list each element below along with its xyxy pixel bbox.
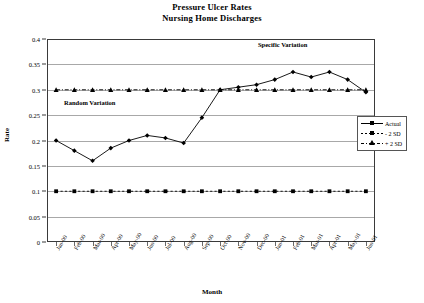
y-axis-tick-label: 0.25 <box>29 112 40 119</box>
data-point <box>218 189 222 193</box>
data-point <box>364 189 368 193</box>
data-point <box>200 189 204 193</box>
y-axis-tick-label: 0.2 <box>32 137 40 144</box>
data-point <box>309 75 314 80</box>
data-point <box>163 136 168 141</box>
data-point <box>145 133 150 138</box>
chart-subtitle: Nursing Home Discharges <box>0 13 424 24</box>
series-2-sd <box>54 87 369 92</box>
data-point <box>272 77 277 82</box>
chart-legend: Actual - 2 SD + 2 SD <box>357 116 407 151</box>
data-point <box>327 87 332 92</box>
legend-item-plus-2sd: + 2 SD <box>361 140 402 147</box>
y-axis-tick <box>42 115 46 116</box>
data-point <box>163 87 168 92</box>
data-point <box>327 70 332 75</box>
data-point <box>72 148 77 153</box>
y-axis-tick-label: 0.3 <box>32 86 40 93</box>
series-line <box>56 72 366 161</box>
y-axis-tick <box>42 39 46 40</box>
y-axis-tick-label: 0.35 <box>29 61 40 68</box>
y-axis-tick <box>42 165 46 166</box>
data-point <box>254 82 259 87</box>
data-point <box>127 138 132 143</box>
series-2-sd <box>54 189 368 193</box>
annotation-specific-variation: Specific Variation <box>258 41 307 48</box>
data-point <box>54 138 59 143</box>
data-point <box>54 189 58 193</box>
data-point <box>291 70 296 75</box>
legend-item-actual: Actual <box>361 120 402 127</box>
data-point <box>328 189 332 193</box>
data-point <box>363 87 368 92</box>
y-axis-tick-label: 0.4 <box>32 36 40 43</box>
data-point <box>164 189 168 193</box>
data-point <box>255 189 259 193</box>
data-point <box>182 189 186 193</box>
legend-label-plus-2sd: + 2 SD <box>385 141 402 147</box>
y-axis-labels: 0.40.350.30.250.20.150.10.050 <box>0 39 45 242</box>
legend-label-actual: Actual <box>385 121 401 127</box>
data-point <box>72 189 76 193</box>
y-axis-tick-label: 0.05 <box>29 213 40 220</box>
data-point <box>91 189 95 193</box>
legend-key-actual-icon <box>361 120 383 127</box>
legend-key-plus-2sd-icon <box>361 140 383 147</box>
y-axis-tick-label: 0.1 <box>32 188 40 195</box>
data-point <box>236 189 240 193</box>
series-layer <box>47 39 375 242</box>
y-axis-tick <box>42 216 46 217</box>
y-axis-tick <box>42 242 46 243</box>
y-axis-tick-label: 0.15 <box>29 162 40 169</box>
legend-key-minus-2sd-icon <box>361 130 383 137</box>
y-axis-tick <box>42 140 46 141</box>
y-axis-tick <box>42 89 46 90</box>
data-point <box>127 189 131 193</box>
data-point <box>145 189 149 193</box>
y-axis-tick <box>42 191 46 192</box>
y-axis-tick-label: 0 <box>37 239 40 246</box>
chart-container: Pressure Ulcer Rates Nursing Home Discha… <box>0 0 424 303</box>
chart-title-block: Pressure Ulcer Rates Nursing Home Discha… <box>0 2 424 24</box>
annotation-random-variation: Random Variation <box>64 99 115 106</box>
series-svg <box>47 39 375 242</box>
y-axis-tick <box>42 64 46 65</box>
data-point <box>109 189 113 193</box>
x-axis-title: Month <box>0 288 424 296</box>
chart-title: Pressure Ulcer Rates <box>0 2 424 13</box>
legend-item-minus-2sd: - 2 SD <box>361 130 402 137</box>
data-point <box>309 189 313 193</box>
data-point <box>291 189 295 193</box>
series-actual <box>54 70 368 163</box>
data-point <box>273 189 277 193</box>
data-point <box>346 189 350 193</box>
legend-label-minus-2sd: - 2 SD <box>385 131 401 137</box>
